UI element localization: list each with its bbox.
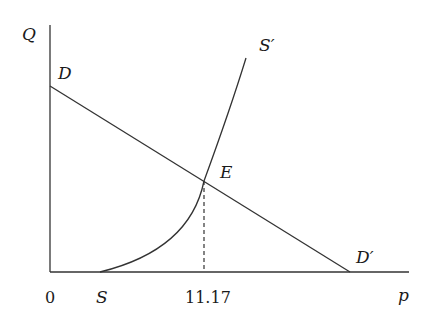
equilibrium-label: E xyxy=(219,162,233,182)
demand-curve xyxy=(50,86,350,272)
demand-start-label: D xyxy=(57,63,72,83)
origin-label: 0 xyxy=(45,288,55,307)
supply-start-label: S xyxy=(96,287,108,307)
demand-end-label: D′ xyxy=(355,247,374,267)
supply-demand-diagram: Q D S′ E D′ 0 S 11.17 p xyxy=(0,0,435,320)
equilibrium-price-tick: 11.17 xyxy=(185,288,231,307)
y-axis-label: Q xyxy=(22,24,36,44)
x-axis-label: p xyxy=(398,285,409,305)
supply-end-label: S′ xyxy=(259,35,275,55)
